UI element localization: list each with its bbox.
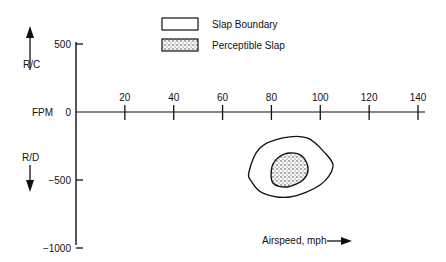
legend-swatch-slap-boundary [162,18,198,30]
arrow-right-icon [327,237,352,245]
arrow-down-icon [26,165,34,192]
legend: Slap Boundary Perceptible Slap [162,18,285,51]
x-tick-label: 140 [410,92,427,103]
regions [249,136,334,197]
x-tick-label: 20 [119,92,131,103]
rd-label: R/D [22,152,39,163]
x-tick-label: 60 [217,92,229,103]
y-tick-label: 500 [54,39,71,50]
legend-label-perceptible-slap: Perceptible Slap [212,40,285,51]
x-axis-label: Airspeed, mph [262,235,326,246]
region-perceptible-slap [271,153,308,187]
x-tick-label: 40 [168,92,180,103]
y-tick-label: −500 [48,175,71,186]
y-axis-label: FPM [32,107,53,118]
y-tick-label: −1000 [43,243,72,254]
x-ticks: 20406080100120140 [119,92,426,120]
legend-label-slap-boundary: Slap Boundary [212,19,278,30]
x-tick-label: 80 [266,92,278,103]
legend-swatch-perceptible-slap [162,39,198,51]
chart: Slap Boundary Perceptible Slap R/C FPM R… [0,0,446,262]
rc-label: R/C [23,59,40,70]
x-tick-label: 120 [361,92,378,103]
y-ticks: 5000−500−1000 [43,39,83,254]
x-tick-label: 100 [312,92,329,103]
y-tick-label: 0 [65,107,71,118]
